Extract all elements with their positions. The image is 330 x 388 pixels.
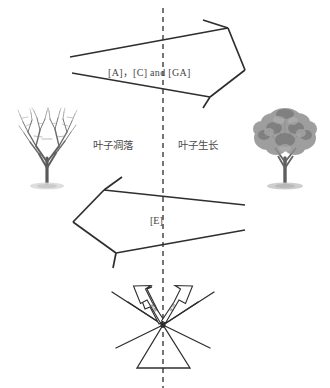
label-leaf-fall: 叶子凋落 [93,137,133,152]
leafy-tree [249,104,321,192]
label-hormones-top: [A]，[C] and [GA] [108,64,191,79]
bare-tree [12,106,82,192]
outline-arrow-left [134,286,165,325]
diagram-canvas [0,0,330,388]
label-leaf-growth: 叶子生长 [178,137,218,152]
hormone-seasonal-diagram: [A]，[C] and [GA] [E] 叶子凋落 叶子生长 脱落 生长 [0,0,330,388]
label-hormone-bottom: [E] [150,215,163,226]
